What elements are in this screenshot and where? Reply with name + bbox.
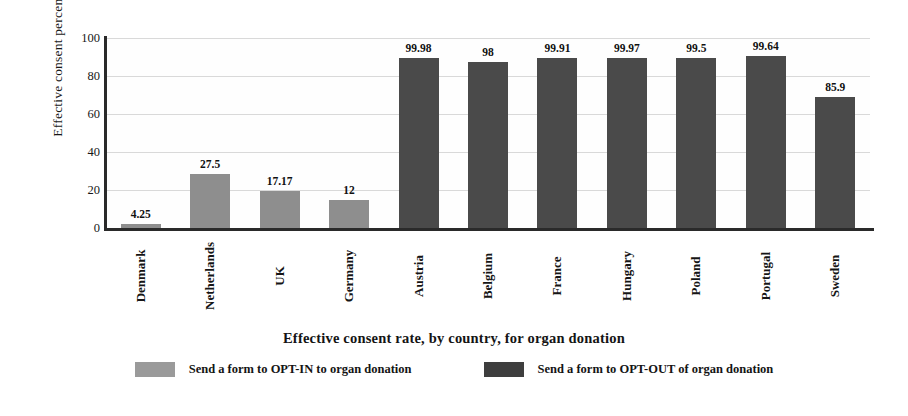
bar-value-label: 99.5: [686, 42, 706, 54]
bar-group: 99.5: [662, 38, 731, 228]
y-axis-tick-label: 40: [66, 145, 100, 160]
y-axis-tick-labels: 020406080100: [60, 38, 100, 228]
legend-swatch-icon: [484, 362, 524, 377]
x-axis-label-slot: Austria: [384, 232, 453, 324]
bar-group: 27.5: [175, 38, 244, 228]
bar-value-label: 27.5: [200, 158, 220, 170]
x-axis-category-label: France: [549, 257, 565, 296]
legend-item[interactable]: Send a form to OPT-IN to organ donation: [135, 362, 412, 377]
x-axis-category-label: Hungary: [619, 251, 635, 301]
bar-group: 4.25: [106, 38, 175, 228]
bar-group: 85.9: [801, 38, 870, 228]
bar[interactable]: [746, 56, 786, 228]
bar-value-label: 99.98: [406, 42, 432, 54]
y-axis-tick-label: 20: [66, 183, 100, 198]
bar-value-label: 17.17: [267, 175, 293, 187]
legend-label: Send a form to OPT-IN to organ donation: [189, 362, 412, 377]
x-axis-category-label: Austria: [411, 255, 427, 297]
bar-group: 99.91: [523, 38, 592, 228]
x-axis-category-label: Denmark: [133, 250, 149, 303]
legend-swatch-icon: [135, 362, 175, 377]
x-axis-label-slot: Portugal: [731, 232, 800, 324]
bar-value-label: 12: [343, 184, 355, 196]
bar[interactable]: [190, 174, 230, 228]
bar-series-container: 4.2527.517.171299.989899.9199.9799.599.6…: [106, 38, 870, 228]
x-axis-category-label: Netherlands: [202, 242, 218, 310]
bar[interactable]: [329, 200, 369, 228]
bar-value-label: 99.64: [753, 40, 779, 52]
bar-group: 99.97: [592, 38, 661, 228]
bar-group: 99.98: [384, 38, 453, 228]
x-axis-category-label: Germany: [341, 250, 357, 303]
legend-label: Send a form to OPT-OUT of organ donation: [538, 362, 774, 377]
x-axis-label-slot: France: [523, 232, 592, 324]
x-axis-label-slot: Hungary: [592, 232, 661, 324]
bar[interactable]: [468, 62, 508, 228]
y-axis-tick-label: 80: [66, 69, 100, 84]
bar-chart: Effective consent percentage 02040608010…: [0, 0, 908, 416]
bar-value-label: 99.91: [545, 42, 571, 54]
y-axis-tick-label: 60: [66, 107, 100, 122]
bar[interactable]: [676, 58, 716, 228]
x-axis-label-slot: Belgium: [453, 232, 522, 324]
y-axis-title-container: Effective consent percentage: [22, 18, 48, 238]
bar[interactable]: [537, 58, 577, 228]
x-axis-title: Effective consent rate, by country, for …: [0, 330, 908, 347]
x-axis-category-label: Belgium: [480, 253, 496, 299]
y-axis-tick-label: 0: [66, 221, 100, 236]
bar[interactable]: [815, 97, 855, 228]
bar-value-label: 98: [482, 46, 494, 58]
bar-value-label: 4.25: [131, 208, 151, 220]
x-axis-category-label: Sweden: [827, 255, 843, 298]
chart-legend: Send a form to OPT-IN to organ donationS…: [0, 362, 908, 377]
y-axis-tick-label: 100: [66, 31, 100, 46]
x-axis-category-label: UK: [272, 266, 288, 286]
x-axis-label-slot: Poland: [662, 232, 731, 324]
x-axis-category-label: Portugal: [758, 252, 774, 300]
x-axis-label-slot: Germany: [314, 232, 383, 324]
bar-group: 17.17: [245, 38, 314, 228]
x-axis-label-slot: UK: [245, 232, 314, 324]
x-axis-label-slot: Netherlands: [175, 232, 244, 324]
x-axis-line: [104, 228, 874, 231]
bar-group: 99.64: [731, 38, 800, 228]
legend-item[interactable]: Send a form to OPT-OUT of organ donation: [484, 362, 774, 377]
bar-group: 12: [314, 38, 383, 228]
x-axis-category-labels: DenmarkNetherlandsUKGermanyAustriaBelgiu…: [106, 232, 870, 324]
bar-group: 98: [453, 38, 522, 228]
bar-value-label: 85.9: [825, 81, 845, 93]
bar[interactable]: [399, 58, 439, 228]
bar[interactable]: [260, 191, 300, 228]
bar-value-label: 99.97: [614, 42, 640, 54]
x-axis-category-label: Poland: [688, 256, 704, 295]
x-axis-label-slot: Denmark: [106, 232, 175, 324]
bar[interactable]: [607, 58, 647, 228]
x-axis-label-slot: Sweden: [801, 232, 870, 324]
bar[interactable]: [121, 224, 161, 228]
